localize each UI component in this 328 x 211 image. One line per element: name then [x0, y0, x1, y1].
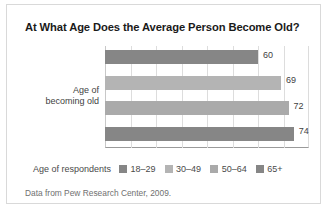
bar-value-label: 60 — [263, 50, 273, 60]
bar-row: 60 — [105, 46, 309, 72]
source-note: Data from Pew Research Center, 2009. — [25, 188, 171, 198]
legend-item-label: 18–29 — [131, 164, 156, 174]
chart-title: At What Age Does the Average Person Beco… — [25, 21, 299, 33]
legend: Age of respondents 18–2930–4950–6465+ — [33, 164, 291, 174]
legend-swatch — [210, 165, 218, 173]
legend-item[interactable]: 65+ — [256, 164, 283, 174]
bar[interactable] — [105, 76, 281, 90]
legend-item[interactable]: 50–64 — [210, 164, 247, 174]
legend-item[interactable]: 18–29 — [119, 164, 156, 174]
bar[interactable] — [105, 127, 294, 141]
y-axis-label-line-1: Age of — [25, 85, 99, 96]
bar-series: 60697274 — [105, 46, 309, 148]
bar-value-label: 74 — [299, 126, 309, 136]
legend-swatch — [119, 165, 127, 173]
figure-frame: At What Age Does the Average Person Beco… — [6, 4, 321, 204]
bar-row: 69 — [105, 72, 309, 98]
bar-row: 72 — [105, 97, 309, 123]
bar-value-label: 69 — [286, 75, 296, 85]
legend-swatch — [165, 165, 173, 173]
plot-area: 60697274 — [105, 46, 309, 148]
legend-item-label: 30–49 — [176, 164, 201, 174]
legend-swatch — [256, 165, 264, 173]
bar-row: 74 — [105, 123, 309, 149]
bar[interactable] — [105, 50, 258, 64]
legend-item[interactable]: 30–49 — [165, 164, 202, 174]
legend-item-label: 50–64 — [222, 164, 247, 174]
legend-item-label: 65+ — [267, 164, 282, 174]
y-axis-label-line-2: becoming old — [25, 96, 99, 107]
bar-value-label: 72 — [294, 101, 304, 111]
y-axis-label: Age of becoming old — [25, 85, 99, 107]
legend-title: Age of respondents — [33, 164, 111, 174]
legend-items: 18–2930–4950–6465+ — [119, 164, 291, 174]
bar[interactable] — [105, 101, 289, 115]
